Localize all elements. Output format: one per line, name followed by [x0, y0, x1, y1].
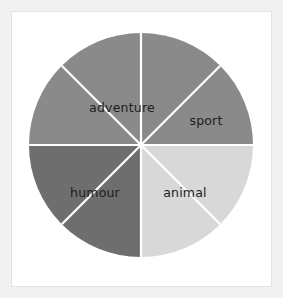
pie-label-sport: sport — [189, 113, 222, 128]
pie-label-adventure: adventure — [89, 100, 155, 115]
pie-chart: adventuresporthumouranimal — [0, 0, 283, 298]
pie-chart-svg: adventuresporthumouranimal — [0, 0, 283, 298]
pie-label-humour: humour — [70, 185, 121, 200]
pie-label-animal: animal — [163, 185, 207, 200]
figure-background: adventuresporthumouranimal — [0, 0, 283, 298]
pie-divider-group — [29, 33, 253, 257]
